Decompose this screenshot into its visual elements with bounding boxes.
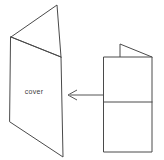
flat-folded-card	[104, 44, 152, 152]
cover-label: cover	[13, 87, 55, 96]
folded-card-diagram	[0, 0, 164, 160]
leftward-arrow	[68, 90, 103, 100]
open-folded-card	[10, 5, 63, 157]
flat-card-body-face	[104, 57, 152, 152]
diagram-canvas: cover	[0, 0, 164, 160]
